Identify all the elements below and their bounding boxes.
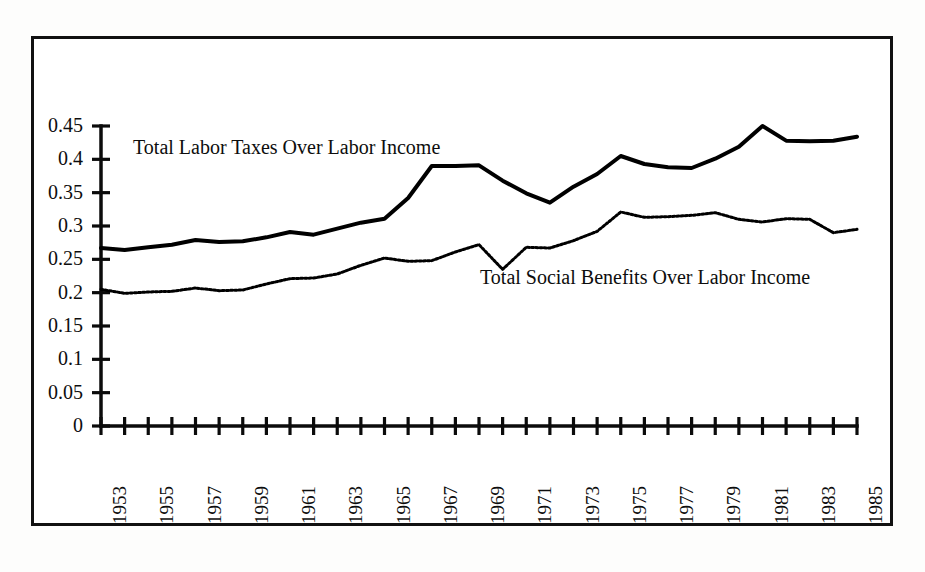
x-axis-tick-label-1979: 1979 xyxy=(724,486,743,524)
x-axis-tick-label-1973: 1973 xyxy=(583,486,602,524)
x-axis-tick-label-1965: 1965 xyxy=(394,486,413,524)
x-axis-tick-label-1971: 1971 xyxy=(535,486,554,524)
y-axis-tick-label-8: 0.4 xyxy=(0,148,83,168)
x-axis-tick-label-1953: 1953 xyxy=(110,486,129,524)
x-axis-tick-label-1977: 1977 xyxy=(677,486,696,524)
y-axis-tick-label-6: 0.3 xyxy=(0,215,83,235)
x-axis-tick-label-1959: 1959 xyxy=(252,486,271,524)
y-axis-tick-label-0: 0 xyxy=(0,415,83,435)
y-axis-tick-label-2: 0.1 xyxy=(0,348,83,368)
y-axis-tick-label-1: 0.05 xyxy=(0,382,83,402)
y-axis-tick-label-4: 0.2 xyxy=(0,282,83,302)
x-axis-tick-label-1961: 1961 xyxy=(299,486,318,524)
x-axis-tick-label-1955: 1955 xyxy=(157,486,176,524)
x-axis-tick-label-1957: 1957 xyxy=(205,486,224,524)
x-axis-tick-label-1969: 1969 xyxy=(488,486,507,524)
series-label-total-social-benefits: Total Social Benefits Over Labor Income xyxy=(480,266,810,288)
y-axis-tick-label-7: 0.35 xyxy=(0,182,83,202)
figure-canvas: 00.050.10.150.20.250.30.350.40.45 195319… xyxy=(0,0,925,572)
x-axis-tick-label-1985: 1985 xyxy=(866,486,885,524)
y-axis-tick-label-5: 0.25 xyxy=(0,248,83,268)
x-axis-tick-label-1983: 1983 xyxy=(819,486,838,524)
x-axis-tick-label-1967: 1967 xyxy=(441,486,460,524)
x-axis-tick-label-1963: 1963 xyxy=(346,486,365,524)
y-axis-tick-label-9: 0.45 xyxy=(0,115,83,135)
y-axis-tick-label-3: 0.15 xyxy=(0,315,83,335)
series-label-total-labor-taxes: Total Labor Taxes Over Labor Income xyxy=(133,136,440,158)
x-axis-tick-label-1981: 1981 xyxy=(772,486,791,524)
x-axis-tick-label-1975: 1975 xyxy=(630,486,649,524)
